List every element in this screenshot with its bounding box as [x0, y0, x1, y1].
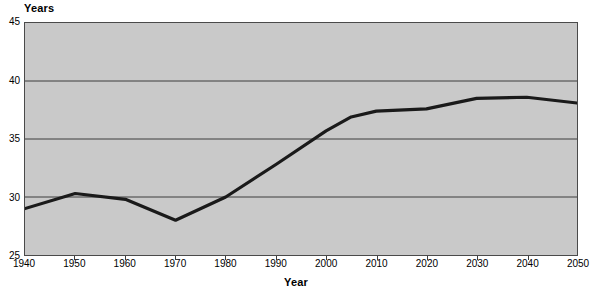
y-axis-tick-label: 35: [0, 133, 20, 144]
x-axis-tick-mark: [74, 256, 75, 260]
x-axis-tick-mark: [276, 256, 277, 260]
x-axis-title: Year: [0, 276, 592, 288]
x-axis-tick-mark: [427, 256, 428, 260]
x-axis-tick-label: 1940: [4, 258, 44, 269]
plot-area: [24, 22, 578, 256]
y-axis-tick-label: 40: [0, 75, 20, 86]
x-axis-tick-label: 2050: [558, 258, 592, 269]
x-axis-tick-mark: [175, 256, 176, 260]
y-axis-tick-label: 30: [0, 192, 20, 203]
x-axis-tick-mark: [326, 256, 327, 260]
x-axis-tick-mark: [477, 256, 478, 260]
chart-container: Years 2530354045 19401950196019701980199…: [0, 0, 592, 296]
y-axis-title: Years: [24, 2, 54, 14]
series-years-line: [25, 97, 577, 220]
data-line-series: [25, 23, 577, 255]
x-axis-tick-mark: [225, 256, 226, 260]
x-axis-tick-mark: [528, 256, 529, 260]
y-axis-tick-label: 45: [0, 16, 20, 27]
x-axis-tick-mark: [377, 256, 378, 260]
x-axis-tick-mark: [125, 256, 126, 260]
